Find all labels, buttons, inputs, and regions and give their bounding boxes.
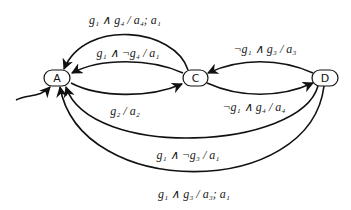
node-c-label: C [192,72,200,85]
node-a: A [44,70,70,86]
edge-label-c-d: ¬g₁ ∧ g₄ / a₄ [223,100,286,114]
initial-arrow [16,87,50,100]
node-d: D [312,70,338,86]
edge-c-d [207,83,313,94]
edge-label-d-a-inner: g₁ ∧ ¬g₃ / a₁ [157,148,220,162]
edge-label-c-a-inner: g₁ ∧ ¬g₄ / a₁ [97,46,160,60]
edge-label-c-a-outer: g₁ ∧ g₄ / a₄; a₁ [89,13,161,27]
node-c: C [183,70,208,86]
edge-label-a-c: g₂ / a₂ [110,104,140,118]
node-d-label: D [321,72,329,85]
edge-c-a-inner [72,62,183,73]
edge-label-d-c: ¬g₁ ∧ g₃ / a₃ [234,42,297,56]
edge-a-c [71,83,182,94]
edge-label-d-a-outer: g₁ ∧ g₃ / a₃; a₁ [158,187,230,201]
state-diagram: A C D g₁ ∧ g₄ / a₄; a₁ g₁ ∧ ¬g₄ / a₁ g₂ … [0,0,351,210]
node-a-label: A [53,72,61,85]
edge-d-c [208,62,313,73]
